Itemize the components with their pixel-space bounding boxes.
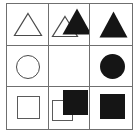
circle-outline-shape: [16, 55, 40, 79]
matrix-cell-r3c1[interactable]: [7, 87, 49, 129]
matrix-cell-r3c3[interactable]: [90, 87, 132, 129]
matrix-cell-r2c3[interactable]: [90, 46, 132, 88]
circle-filled-shape: [100, 54, 125, 79]
shape-layer: [49, 4, 90, 45]
shape-layer: [7, 4, 48, 45]
matrix-cell-r2c2-empty[interactable]: [49, 46, 91, 88]
shape-matrix-grid: [6, 3, 133, 130]
triangle-outline-shape: [13, 12, 43, 37]
shape-layer: [90, 4, 132, 45]
triangle-filled-shape: [62, 8, 91, 35]
matrix-cell-r1c2[interactable]: [49, 4, 91, 46]
matrix-cell-r1c1[interactable]: [7, 4, 49, 46]
matrix-cell-r1c3[interactable]: [90, 4, 132, 46]
shape-layer: [90, 87, 132, 129]
shape-layer: [7, 87, 48, 129]
square-filled-shape: [100, 94, 125, 119]
shape-layer: [49, 87, 90, 129]
square-outline-shape: [17, 96, 40, 119]
shape-layer-empty: [49, 46, 90, 87]
shape-layer: [90, 46, 132, 87]
shape-layer: [7, 46, 48, 87]
matrix-puzzle-image: [0, 0, 139, 133]
matrix-cell-r3c2[interactable]: [49, 87, 91, 129]
triangle-filled-shape: [99, 11, 128, 38]
square-filled-shape: [63, 90, 88, 115]
matrix-cell-r2c1[interactable]: [7, 46, 49, 88]
